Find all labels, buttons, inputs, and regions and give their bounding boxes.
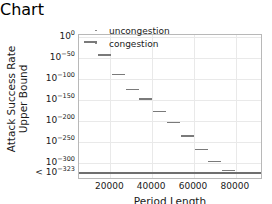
chart-figure: Attack Success Rate Upper Bound 10010−50… — [0, 19, 272, 204]
legend-marker-icon — [87, 30, 105, 32]
x-tick-label: 80000 — [220, 181, 249, 191]
plot-area — [78, 34, 262, 179]
data-point-marker — [112, 74, 125, 76]
data-point-marker — [126, 89, 139, 91]
x-tick-label: 60000 — [179, 181, 208, 191]
gridline — [152, 35, 153, 178]
legend-label: congestion — [109, 39, 158, 49]
data-point-marker — [153, 111, 166, 113]
data-point-marker — [195, 149, 208, 151]
y-tick-label: 100 — [59, 31, 75, 41]
y-tick-label: 10−100 — [46, 73, 75, 83]
y-axis-title-line1: Attack Success Rate — [5, 46, 17, 153]
data-point-marker — [139, 98, 152, 100]
data-point-marker — [208, 161, 221, 163]
x-tick-label: 20000 — [95, 181, 124, 191]
legend-item: uncongestion — [87, 24, 183, 37]
y-tick-label: 10−200 — [46, 115, 75, 125]
y-tick-label: 10−50 — [50, 52, 75, 62]
data-point-marker — [98, 54, 111, 56]
gridline — [236, 35, 237, 178]
data-point-marker — [222, 170, 235, 172]
y-tick-label: 10−150 — [46, 94, 75, 104]
gridline — [110, 35, 111, 178]
legend-marker-icon — [87, 43, 105, 45]
data-point-marker — [181, 135, 194, 137]
legend-item: congestion — [87, 37, 183, 50]
chart-legend: uncongestioncongestion — [84, 22, 186, 52]
x-tick-label: 40000 — [137, 181, 166, 191]
gridline — [79, 163, 261, 164]
y-tick-label: < 10−323 — [35, 167, 75, 177]
legend-label: uncongestion — [109, 26, 170, 36]
gridline — [79, 142, 261, 143]
data-point-marker — [167, 122, 180, 124]
y-tick-label: 10−250 — [46, 136, 75, 146]
gridline — [79, 79, 261, 80]
gridline — [194, 35, 195, 178]
x-axis-title: Period Length — [78, 195, 262, 204]
gridline — [79, 100, 261, 101]
x-axis-tick-labels: 20000400006000080000 — [78, 181, 262, 195]
gridline — [79, 58, 261, 59]
floor-threshold-line — [79, 172, 261, 173]
y-axis-tick-labels: 10010−5010−10010−15010−20010−25010−300< … — [20, 34, 75, 179]
